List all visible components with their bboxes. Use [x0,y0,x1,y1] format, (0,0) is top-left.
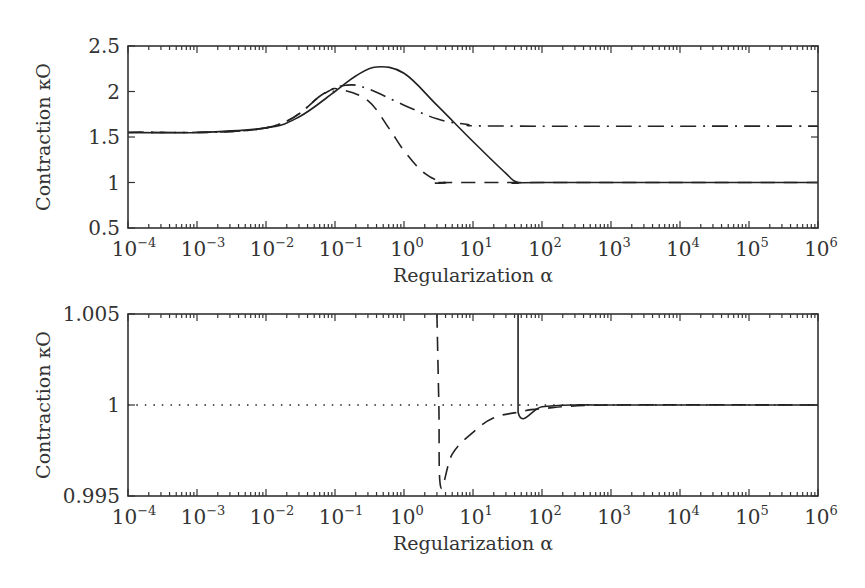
x-tick-label: 106 [804,503,838,529]
plot-area [128,314,818,488]
y-axis-label: Contraction κO [32,331,54,479]
y-tick-label: 1 [107,171,120,195]
x-ticks [128,46,818,228]
series-dashed [128,88,818,183]
y-axis-label: Contraction κO [32,63,54,211]
y-tick-label: 2 [107,80,120,104]
x-tick-label: 10−1 [319,503,364,529]
series-solid [518,314,818,419]
chart-panel-top: 10−410−310−210−11001011021031041051062.5… [32,34,838,286]
series-dash-dot [128,85,818,133]
x-tick-label: 104 [666,503,700,529]
plot-area [128,67,818,183]
series-dashed [437,314,818,488]
x-tick-label: 10−2 [250,503,295,529]
x-tick-label: 102 [528,503,562,529]
x-tick-label: 101 [459,235,493,261]
y-tick-label: 1.005 [63,302,120,326]
x-tick-label: 102 [528,235,562,261]
x-tick-label: 101 [459,503,493,529]
x-tick-label: 10−3 [181,235,226,261]
x-tick-label: 105 [735,503,769,529]
chart-panel-bottom: 10−410−310−210−11001011021031041051061.0… [32,302,838,554]
figure: 10−410−310−210−11001011021031041051062.5… [0,0,865,588]
x-tick-label: 100 [390,503,424,529]
x-tick-label: 103 [597,235,631,261]
x-tick-label: 10−1 [319,235,364,261]
series-solid [128,67,818,183]
y-tick-label: 0.995 [63,484,120,508]
x-tick-label: 10−3 [181,503,226,529]
x-tick-label: 100 [390,235,424,261]
x-tick-label: 106 [804,235,838,261]
x-tick-label: 10−2 [250,235,295,261]
y-tick-label: 1.5 [88,125,120,149]
y-tick-label: 2.5 [88,34,120,58]
axes-frame [128,46,818,228]
x-tick-label: 104 [666,235,700,261]
x-axis-label: Regularization α [393,532,553,554]
x-tick-label: 103 [597,503,631,529]
y-tick-label: 0.5 [88,216,120,240]
x-axis-label: Regularization α [393,264,553,286]
y-tick-label: 1 [107,393,120,417]
x-tick-label: 105 [735,235,769,261]
